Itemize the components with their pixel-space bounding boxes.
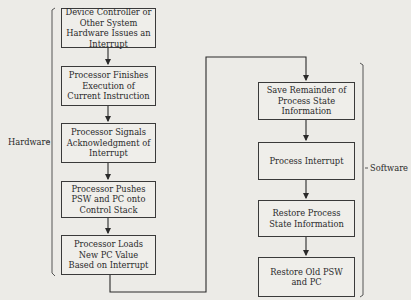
step-text: Device Controller or Other System Hardwa… xyxy=(65,7,152,49)
step-push-psw-pc: Processor Pushes PSW and PC onto Control… xyxy=(61,181,156,218)
software-bracket xyxy=(360,63,368,297)
step-processor-finishes-instruction: Processor Finishes Execution of Current … xyxy=(61,66,156,106)
step-text: Processor Finishes Execution of Current … xyxy=(65,70,152,102)
interrupt-processing-flowchart: Device Controller or Other System Hardwa… xyxy=(0,0,411,300)
step-text: Processor Signals Acknowledgment of Inte… xyxy=(65,127,152,159)
step-device-issues-interrupt: Device Controller or Other System Hardwa… xyxy=(61,8,156,48)
step-text: Processor Loads New PC Value Based on In… xyxy=(65,239,152,271)
step-text: Process Interrupt xyxy=(269,156,343,167)
step-text: Save Remainder of Process State Informat… xyxy=(262,85,351,117)
step-restore-process-state: Restore Process State Information xyxy=(258,200,355,237)
step-load-new-pc: Processor Loads New PC Value Based on In… xyxy=(61,235,156,275)
step-restore-psw-pc: Restore Old PSW and PC xyxy=(258,257,355,297)
step-text: Restore Process State Information xyxy=(262,208,351,229)
step-processor-acknowledges-interrupt: Processor Signals Acknowledgment of Inte… xyxy=(61,123,156,163)
software-label: Software xyxy=(370,163,408,173)
step-process-interrupt: Process Interrupt xyxy=(258,142,355,180)
hardware-label: Hardware xyxy=(8,137,50,147)
step-save-process-state: Save Remainder of Process State Informat… xyxy=(258,82,355,120)
step-text: Restore Old PSW and PC xyxy=(262,267,351,288)
step-text: Processor Pushes PSW and PC onto Control… xyxy=(65,184,152,216)
